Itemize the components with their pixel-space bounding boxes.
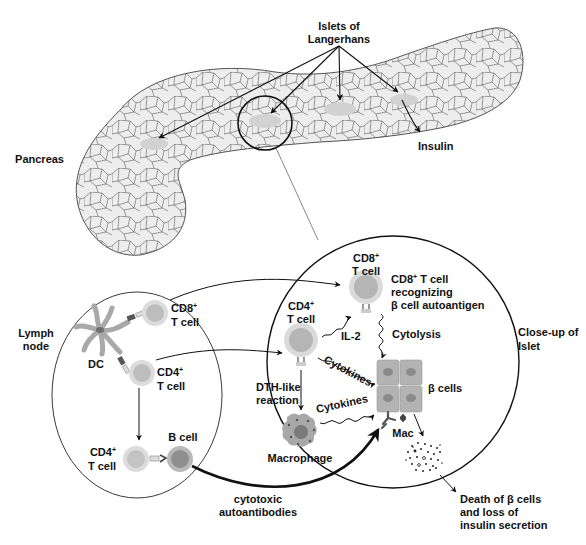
cd8-migration-arrow <box>170 279 340 300</box>
bound-antibody-icon <box>382 412 395 428</box>
lymph-cd4-label-line1: CD4+ <box>157 366 183 378</box>
insulin-label: Insulin <box>418 140 454 152</box>
helper-cd4-t-cell <box>123 446 149 472</box>
pancreas-label: Pancreas <box>15 153 64 165</box>
autoantibodies-label-line1: cytotoxic <box>234 493 282 505</box>
closeup-label-line1: Close-up of <box>518 326 579 338</box>
macrophage <box>282 413 317 446</box>
cytokines-label-2: Cytokines <box>315 392 369 415</box>
islet-cd4-t-cell <box>284 323 318 366</box>
dendritic-cell <box>76 306 128 354</box>
lymph-node-label-line2: node <box>23 340 49 352</box>
islet-3 <box>324 102 356 116</box>
islet-cd8-label-line1: CD8+ <box>353 252 379 264</box>
b-cell-label: B cell <box>168 431 197 443</box>
lymph-cd8-t-cell <box>142 300 168 326</box>
cd4-b-receptor-link <box>150 456 159 461</box>
death-label-line3: insulin secretion <box>460 519 548 531</box>
pancreas: Islets of Langerhans Insulin Pancreas <box>15 20 523 255</box>
mac-label: Mac <box>392 427 413 439</box>
zoom-connector-line <box>276 148 318 240</box>
il2-label: IL-2 <box>341 330 361 342</box>
cd8-desc-line2: recognizing <box>391 286 453 298</box>
helper-cd4-label-line1: CD4+ <box>90 446 116 458</box>
helper-cd4-label-line2: T cell <box>88 460 116 472</box>
dead-cell-debris <box>405 442 443 472</box>
lymph-cd8-label-line1: CD8+ <box>171 302 197 314</box>
dc-label: DC <box>88 358 104 370</box>
beta-cells-label: β cells <box>428 382 462 394</box>
cd8-desc-line1: CD8+ T cell <box>391 273 448 285</box>
islet-1 <box>140 138 168 150</box>
cd4-migration-arrow <box>156 350 282 360</box>
islet-cd4-label-line1: CD4+ <box>288 300 314 312</box>
beta-cells <box>377 360 422 412</box>
lymph-cd8-label-line2: T cell <box>171 316 199 328</box>
dth-label-line1: DTH-like <box>256 381 301 393</box>
mac-receptor-icon <box>400 414 406 422</box>
lymph-cd4-label-line2: T cell <box>157 380 185 392</box>
islet-2 <box>249 114 281 128</box>
islets-label-line2: Langerhans <box>308 33 370 45</box>
beta-to-death-arrow <box>414 414 423 436</box>
cytokines-label-1: Cytokines <box>322 353 374 388</box>
cd8-desc-line3: β cell autoantigen <box>391 299 485 311</box>
lymph-node-label-line1: Lymph <box>18 327 54 339</box>
dc-cd4-receptor-link <box>117 356 129 373</box>
lymph-cd4-t-cell <box>129 360 155 386</box>
islet-closeup: Close-up of Islet CD8+ T cell CD8+ T cel… <box>156 236 579 488</box>
lymph-node: Lymph node DC <box>18 292 222 498</box>
autoimmune-diabetes-diagram: Islets of Langerhans Insulin Pancreas Ly… <box>0 0 586 545</box>
death-label-line2: and loss of <box>460 506 518 518</box>
islet-cd8-label-line2: T cell <box>352 265 380 277</box>
islet-cd4-label-line2: T cell <box>287 313 315 325</box>
dth-label-line2: reaction <box>256 394 299 406</box>
cytolysis-arrow <box>379 314 383 358</box>
islets-label-line1: Islets of <box>318 20 360 32</box>
cytokines-arrow-2 <box>320 415 374 424</box>
b-cell <box>167 446 193 472</box>
closeup-label-line2: Islet <box>518 340 540 352</box>
death-label-line1: Death of β cells <box>460 493 541 505</box>
cytolysis-label: Cytolysis <box>392 328 441 340</box>
autoantibodies-label-line2: autoantibodies <box>219 506 297 518</box>
death-pointer-arrow <box>440 475 456 492</box>
macrophage-label: Macrophage <box>268 452 333 464</box>
